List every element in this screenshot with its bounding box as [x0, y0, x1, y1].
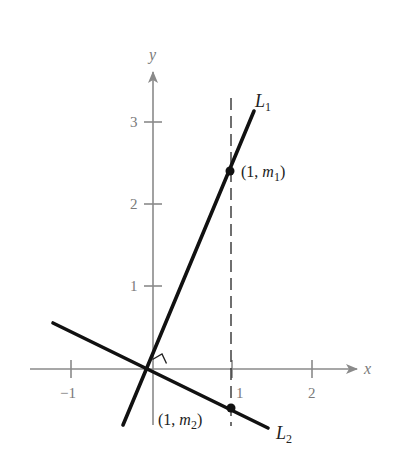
x-tick-label-neg1: −1 — [60, 385, 76, 401]
y-tick-label-3: 3 — [130, 114, 138, 130]
x-axis-label: x — [363, 360, 371, 377]
point-1-m1 — [226, 167, 235, 176]
line-label-l2: L2 — [275, 423, 292, 446]
point-label-m2: (1, m2) — [158, 411, 202, 432]
point-label-m1: (1, m1) — [241, 163, 285, 184]
right-angle-marker — [153, 354, 167, 364]
y-axis-label: y — [147, 46, 157, 64]
y-tick-label-2: 2 — [130, 196, 138, 212]
x-tick-label-1: 1 — [236, 385, 244, 401]
line-l1 — [123, 111, 254, 425]
y-tick-label-1: 1 — [130, 278, 138, 294]
x-tick-label-2: 2 — [308, 385, 316, 401]
perpendicular-lines-diagram: −1 1 2 1 2 3 x y (1, m1) (1, m2) L1 L2 — [0, 0, 405, 471]
line-label-l1: L1 — [254, 91, 271, 114]
point-1-m2 — [227, 404, 236, 413]
